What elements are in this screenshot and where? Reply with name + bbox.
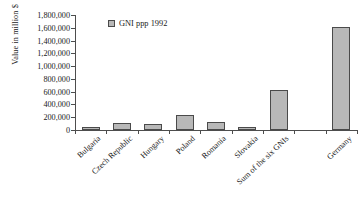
- y-axis-tick-label: 600,000: [43, 87, 70, 96]
- y-axis-tick-label: 0: [66, 126, 70, 135]
- y-axis-tick-label: 800,000: [43, 74, 70, 83]
- y-axis-line: [75, 15, 76, 130]
- x-axis-label: Bulgaria: [76, 134, 103, 160]
- y-axis-title: Value in million $: [11, 0, 20, 90]
- y-axis-tick-label: 200,000: [43, 113, 70, 122]
- bar: [82, 127, 100, 130]
- legend-label: GNI ppp 1992: [119, 19, 167, 28]
- x-axis-tick: [232, 130, 233, 134]
- bar: [176, 115, 194, 130]
- y-axis-tick: [71, 92, 75, 93]
- x-axis-tick: [106, 130, 107, 134]
- y-axis-tick: [71, 117, 75, 118]
- x-axis-tick: [357, 130, 358, 134]
- bar: [270, 90, 288, 130]
- y-axis-tick: [71, 104, 75, 105]
- y-axis-tick-label: 1,400,000: [37, 36, 70, 45]
- x-axis-tick: [326, 130, 327, 134]
- bar: [113, 123, 131, 130]
- y-axis-tick: [71, 15, 75, 16]
- x-axis-tick: [263, 130, 264, 134]
- x-axis-label: Romania: [200, 134, 228, 161]
- x-axis-label: Germany: [325, 134, 353, 161]
- x-axis-tick: [294, 130, 295, 134]
- x-axis-tick: [169, 130, 170, 134]
- bar: [238, 127, 256, 130]
- legend-swatch-icon: [108, 20, 115, 27]
- x-axis-tick: [200, 130, 201, 134]
- y-axis-tick: [71, 79, 75, 80]
- y-axis-tick-label: 1,000,000: [37, 62, 70, 71]
- y-axis-tick-label: 1,800,000: [37, 11, 70, 20]
- x-axis-line: [75, 130, 357, 131]
- bar: [207, 122, 225, 130]
- plot-area: 0200,000400,000600,000800,0001,000,0001,…: [75, 15, 357, 130]
- x-axis-tick: [75, 130, 76, 134]
- bar: [332, 27, 350, 131]
- y-axis-tick: [71, 66, 75, 67]
- y-axis-tick: [71, 41, 75, 42]
- x-axis-label: Poland: [174, 134, 197, 156]
- x-axis-label: Hungary: [138, 134, 165, 160]
- y-axis-tick-label: 1,600,000: [37, 23, 70, 32]
- x-axis-label: Slovakia: [232, 134, 259, 160]
- x-axis-tick: [138, 130, 139, 134]
- y-axis-tick: [71, 53, 75, 54]
- bar-chart: Value in million $ 0200,000400,000600,00…: [0, 0, 364, 218]
- chart-legend: GNI ppp 1992: [108, 19, 167, 28]
- y-axis-tick: [71, 28, 75, 29]
- y-axis-tick-label: 400,000: [43, 100, 70, 109]
- y-axis-tick-label: 1,200,000: [37, 49, 70, 58]
- bar: [144, 124, 162, 130]
